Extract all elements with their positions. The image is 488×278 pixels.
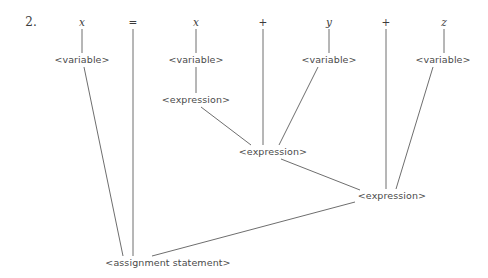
edge-expression1-to-expression2 <box>201 107 251 145</box>
terminal-t-eq: = <box>129 17 138 28</box>
terminal-t-x2: x <box>193 17 199 28</box>
nonterminal-n-var2: <variable> <box>168 55 223 65</box>
nonterminal-n-var4: <variable> <box>415 55 470 65</box>
edge-variable1-to-assignment <box>84 67 123 256</box>
terminal-t-y: y <box>326 17 332 28</box>
edge-expression3-to-assignment <box>152 202 355 256</box>
item-number: 2. <box>25 15 36 29</box>
nonterminal-n-assign: <assignment statement> <box>105 258 230 268</box>
nonterminal-n-var3: <variable> <box>301 55 356 65</box>
terminal-t-x1: x <box>79 17 85 28</box>
edge-variable3-to-expression2 <box>279 67 318 145</box>
tree-edges-layer <box>0 0 488 278</box>
edge-variable4-to-expression3 <box>396 67 433 189</box>
parse-tree-figure: 2. x=x+y+z<variable><variable><variable>… <box>0 0 488 278</box>
terminal-t-p2: + <box>382 17 391 28</box>
nonterminal-n-exp2: <expression> <box>239 147 307 157</box>
terminal-t-z: z <box>441 17 447 28</box>
nonterminal-n-exp1: <expression> <box>162 95 230 105</box>
edge-expression2-to-expression3 <box>281 159 360 190</box>
nonterminal-n-exp3: <expression> <box>358 191 426 201</box>
nonterminal-n-var1: <variable> <box>54 55 109 65</box>
terminal-t-p1: + <box>259 17 268 28</box>
